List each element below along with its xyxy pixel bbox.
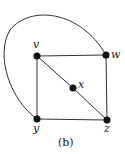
vertex-v [34, 53, 41, 60]
edge-w-y-curved [4, 15, 106, 119]
vertex-w [103, 52, 110, 59]
label-x: x [78, 78, 85, 91]
label-v: v [33, 38, 40, 51]
edges [4, 15, 107, 120]
edge-x-z [73, 88, 107, 120]
label-y: y [32, 122, 40, 135]
label-z: z [103, 122, 110, 135]
edge-y-z [37, 119, 107, 120]
edge-w-z [106, 55, 107, 120]
edge-v-x [37, 56, 73, 88]
label-w: w [111, 48, 121, 61]
vertex-x [70, 85, 77, 92]
figure-caption: (b) [58, 136, 74, 149]
graph-diagram: v w x y z (b) [0, 0, 125, 154]
edge-v-w [37, 55, 106, 56]
